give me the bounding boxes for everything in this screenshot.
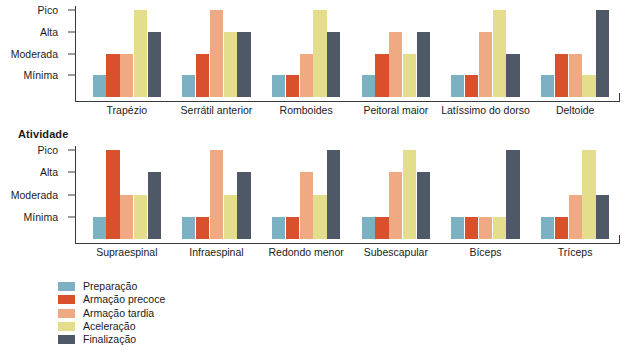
bar <box>313 195 326 240</box>
y-axis-tick <box>68 172 75 173</box>
bar-group <box>182 128 250 239</box>
bar <box>596 195 609 240</box>
bar <box>93 75 106 97</box>
y-tick-label-moderada: Moderada <box>11 48 58 59</box>
bar <box>555 54 568 98</box>
bar <box>196 217 209 239</box>
bar <box>286 217 299 239</box>
bar <box>375 217 388 239</box>
bar <box>375 54 388 98</box>
y-tick-label-alta: Alta <box>40 167 58 178</box>
legend-label: Finalização <box>83 334 136 345</box>
y-tick-label-moderada: Moderada <box>11 189 58 200</box>
bar-group <box>451 0 519 97</box>
bar <box>272 217 285 239</box>
y-axis-labels-bottom: MínimaModeradaAltaPico <box>0 128 68 273</box>
bar <box>479 217 492 239</box>
bar <box>134 10 147 97</box>
bar <box>313 10 326 97</box>
bar <box>362 75 375 97</box>
y-axis-line <box>75 6 76 101</box>
bar <box>196 54 209 98</box>
bar <box>465 217 478 239</box>
bar-group <box>362 0 430 97</box>
bar-group <box>541 128 609 239</box>
bar <box>300 172 313 239</box>
bar <box>106 54 119 98</box>
bar <box>596 10 609 97</box>
x-category-label: Serrátil anterior <box>172 105 262 116</box>
bar-group <box>272 128 340 239</box>
x-axis-line <box>75 243 620 244</box>
bar <box>237 172 250 239</box>
bar <box>493 10 506 97</box>
bar <box>148 172 161 239</box>
bar <box>389 32 402 97</box>
y-tick-label-alta: Alta <box>40 27 58 38</box>
chart-bottom-muscle-activity: MínimaModeradaAltaPico SupraespinalInfra… <box>0 128 627 273</box>
bar <box>506 150 519 239</box>
y-axis-tick <box>68 75 75 76</box>
bar <box>417 172 430 239</box>
y-axis-tick <box>68 194 75 195</box>
x-category-label: Bíceps <box>441 247 531 258</box>
bar <box>237 32 250 97</box>
y-axis-line <box>75 146 76 243</box>
legend-item: Armação tardia <box>58 307 165 319</box>
bar-group <box>93 128 161 239</box>
bar <box>93 217 106 239</box>
y-tick-label-mnima: Mínima <box>24 70 58 81</box>
bar <box>362 217 375 239</box>
bar-group <box>272 0 340 97</box>
bar <box>451 75 464 97</box>
legend-label: Armação precoce <box>83 294 165 305</box>
bar <box>451 217 464 239</box>
y-axis-tick <box>68 216 75 217</box>
bar <box>403 54 416 98</box>
y-tick-label-mnima: Mínima <box>24 212 58 223</box>
x-category-label: Infraespinal <box>172 247 262 258</box>
bar <box>541 75 554 97</box>
bar <box>417 32 430 97</box>
x-category-label: Subescapular <box>351 247 441 258</box>
bar <box>120 195 133 240</box>
x-category-label: Latíssimo do dorso <box>441 105 531 116</box>
bar <box>569 195 582 240</box>
legend-swatch-icon <box>58 282 75 291</box>
bar-group <box>93 0 161 97</box>
bar <box>541 217 554 239</box>
bar <box>555 217 568 239</box>
bar <box>327 150 340 239</box>
y-tick-label-pico: Pico <box>38 5 58 16</box>
y-axis-tick <box>68 150 75 151</box>
x-category-label: Supraespinal <box>82 247 172 258</box>
legend-label: Preparação <box>83 281 137 292</box>
legend-item: Finalização <box>58 334 165 346</box>
x-category-label: Trapézio <box>82 105 172 116</box>
bar <box>389 172 402 239</box>
y-axis-tick <box>68 10 75 11</box>
x-axis-end-cap <box>619 93 620 102</box>
x-axis-end-cap <box>619 235 620 244</box>
legend-swatch-icon <box>58 322 75 331</box>
bar <box>210 10 223 97</box>
x-category-label: Romboides <box>261 105 351 116</box>
bar <box>224 32 237 97</box>
bar <box>210 150 223 239</box>
chart-top-muscle-activity: MínimaModeradaAltaPico TrapézioSerrátil … <box>0 0 627 120</box>
bar <box>479 32 492 97</box>
x-category-label: Redondo menor <box>261 247 351 258</box>
bar <box>569 54 582 98</box>
y-tick-label-pico: Pico <box>38 145 58 156</box>
x-category-label: Deltoide <box>530 105 620 116</box>
bar <box>403 150 416 239</box>
bar <box>182 75 195 97</box>
x-category-label: Tríceps <box>530 247 620 258</box>
bar <box>582 75 595 97</box>
bar <box>582 150 595 239</box>
legend-label: Armação tardia <box>83 308 154 319</box>
bar <box>465 75 478 97</box>
y-axis-tick <box>68 53 75 54</box>
x-axis-line <box>75 101 620 102</box>
bar-group <box>451 128 519 239</box>
